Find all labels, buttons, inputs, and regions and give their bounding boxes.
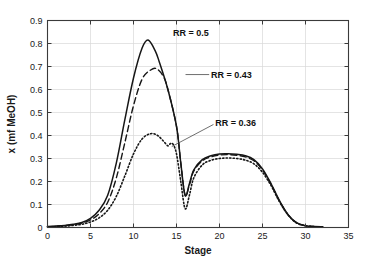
y-tick-label: 0.6 (30, 85, 43, 95)
x-tick-label: 0 (45, 231, 50, 241)
y-tick-label: 0 (37, 223, 42, 233)
x-tick-label: 10 (128, 231, 138, 241)
y-tick-label: 0.3 (30, 154, 43, 164)
y-tick-label: 0.5 (30, 108, 43, 118)
y-tick-label: 0.4 (30, 131, 43, 141)
annotation-label: RR = 0.36 (215, 118, 256, 128)
x-tick-label: 35 (343, 231, 353, 241)
y-axis-label: x (mf MeOH) (6, 95, 17, 154)
y-tick-label: 0.2 (30, 177, 43, 187)
annotation-label: RR = 0.5 (173, 28, 209, 38)
y-tick-label: 0.7 (30, 62, 43, 72)
x-tick-label: 15 (171, 231, 181, 241)
x-tick-label: 20 (214, 231, 224, 241)
x-tick-label: 5 (88, 231, 93, 241)
x-tick-label: 30 (300, 231, 310, 241)
x-axis-label: Stage (184, 245, 212, 256)
y-tick-label: 0.1 (30, 200, 43, 210)
y-tick-label: 0.8 (30, 39, 43, 49)
chart-background (0, 0, 366, 262)
x-tick-label: 25 (257, 231, 267, 241)
line-chart: 05101520253035 00.10.20.30.40.50.60.70.8… (0, 0, 366, 262)
annotation-label: RR = 0.43 (211, 70, 252, 80)
y-tick-label: 0.9 (30, 16, 43, 26)
chart-figure: 05101520253035 00.10.20.30.40.50.60.70.8… (0, 0, 366, 262)
